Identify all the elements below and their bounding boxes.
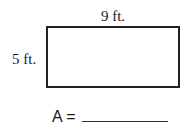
height-label: 5 ft. bbox=[12, 51, 36, 67]
width-label: 9 ft. bbox=[46, 8, 180, 24]
answer-blank-line bbox=[82, 121, 168, 122]
area-prompt: A = bbox=[52, 108, 76, 125]
rectangle bbox=[46, 26, 180, 88]
